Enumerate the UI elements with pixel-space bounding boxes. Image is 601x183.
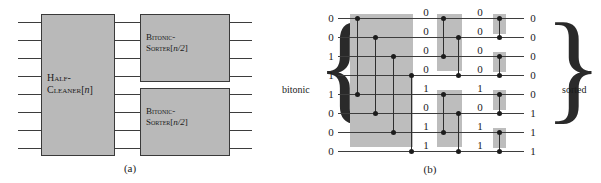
comparator-dot-s2-0-bottom [441,54,446,59]
wire-input-4 [18,94,41,95]
value-input-6: 0 [325,127,337,138]
wire-output-1 [230,40,252,41]
wire-output-2 [230,58,252,59]
wire-mid-2 [115,58,140,59]
value-stage1-3: 0 [420,64,432,75]
half-cleaner-label-line1: Half- [47,72,71,83]
wire-mid-4 [115,94,140,95]
wire-output-4 [230,94,252,95]
wire-input-2 [18,58,41,59]
wire-input-0 [18,22,41,23]
wire-output-7 [230,148,252,149]
wire-mid-3 [115,76,140,77]
value-output-7: 1 [527,146,539,157]
wire-mid-6 [115,130,140,131]
comparator-dot-s2-1-top [456,35,461,40]
value-stage1-0: 0 [420,7,432,18]
comparator-dot-s3-0-bottom [497,35,502,40]
comparator-dot-s3-0-top [497,16,502,21]
wire-input-6 [18,130,41,131]
value-output-2: 0 [527,51,539,62]
bitonic-sorter-bottom-label-line1: Bitonic- [146,106,175,116]
value-stage1-7: 1 [420,140,432,151]
bitonic-sorter-bottom-param: n/2 [173,117,185,127]
comparator-dot-s2-1-bottom [456,73,461,78]
bitonic-sorter-bottom-bracket-close: ] [185,117,188,127]
value-output-1: 0 [527,32,539,43]
comparator-dot-s3-3-top [497,130,502,135]
comparator-dot-s1-2-top [391,54,396,59]
value-output-4: 0 [527,89,539,100]
value-stage2-4: 1 [474,83,486,94]
value-stage2-3: 0 [474,64,486,75]
comparator-dot-s1-3-top [409,73,414,78]
half-cleaner-label: Half- Cleaner[n] [47,72,93,96]
wire-output-5 [230,112,252,113]
shade-stage1 [350,14,413,147]
value-stage2-2: 0 [474,45,486,56]
panel-b: bitonic { [290,0,601,183]
comparator-s2-0 [443,18,444,56]
comparator-dot-s2-2-bottom [441,130,446,135]
value-stage1-1: 0 [420,26,432,37]
wire-mid-7 [115,148,140,149]
bitonic-sorter-bottom-label-line2: Sorter[ [146,117,173,127]
value-output-5: 1 [527,108,539,119]
value-input-4: 1 [325,89,337,100]
value-stage1-4: 1 [420,83,432,94]
value-input-1: 0 [325,32,337,43]
half-cleaner-bracket-close: ] [90,84,93,95]
figure-bitonic-sorter: Half- Cleaner[n] Bitonic- Sorter[n/2] Bi… [0,0,601,183]
bitonic-sorter-top-param: n/2 [173,43,185,53]
wire-input-1 [18,40,41,41]
wire-mid-1 [115,40,140,41]
wire-output-0 [230,22,252,23]
value-stage1-5: 0 [420,102,432,113]
comparator-dot-s2-3-bottom [456,149,461,154]
comparator-s1-2 [393,56,394,132]
panel-a-caption: (a) [110,162,150,174]
value-stage1-6: 1 [420,121,432,132]
wire-output-6 [230,130,252,131]
comparator-dot-s3-3-bottom [497,149,502,154]
half-cleaner-label-line2: Cleaner[ [47,84,85,95]
value-input-7: 0 [325,146,337,157]
value-stage2-6: 1 [474,121,486,132]
comparator-s1-1 [375,37,376,113]
wire-input-7 [18,148,41,149]
bitonic-label: bitonic [282,84,310,95]
panel-a: Half- Cleaner[n] Bitonic- Sorter[n/2] Bi… [0,0,290,183]
bitonic-sorter-top-bracket-close: ] [185,43,188,53]
value-input-3: 1 [325,70,337,81]
wire-input-3 [18,76,41,77]
comparator-dot-s1-1-top [373,35,378,40]
wire-mid-0 [115,22,140,23]
value-output-6: 1 [527,127,539,138]
value-stage2-1: 0 [474,26,486,37]
comparator-dot-s1-2-bottom [391,130,396,135]
comparator-dot-s2-0-top [441,16,446,21]
comparator-dot-s3-1-bottom [497,73,502,78]
value-input-2: 1 [325,51,337,62]
comparator-s2-1 [458,37,459,75]
value-output-0: 0 [527,13,539,24]
comparator-dot-s1-0-top [355,16,360,21]
comparator-dot-s3-2-bottom [497,111,502,116]
comparator-s2-2 [443,94,444,132]
comparator-dot-s3-1-top [497,54,502,59]
value-output-3: 0 [527,70,539,81]
comparator-dot-s2-3-top [456,111,461,116]
bitonic-sorter-bottom-label: Bitonic- Sorter[n/2] [146,106,188,127]
bitonic-sorter-top-label: Bitonic- Sorter[n/2] [146,32,188,53]
value-stage2-5: 0 [474,102,486,113]
comparator-dot-s2-2-top [441,92,446,97]
wire-output-3 [230,76,252,77]
value-input-0: 0 [325,13,337,24]
bitonic-sorter-top-label-line1: Bitonic- [146,32,175,42]
value-stage2-0: 0 [474,7,486,18]
comparator-dot-s3-2-top [497,92,502,97]
comparator-dot-s1-3-bottom [409,149,414,154]
comparator-s1-0 [357,18,358,94]
wire-mid-5 [115,112,140,113]
comparator-s2-3 [458,113,459,151]
